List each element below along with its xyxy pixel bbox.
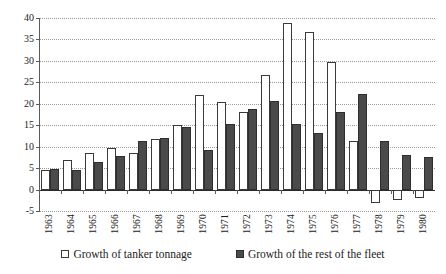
bar-group <box>391 18 413 211</box>
bar-rest-of-fleet <box>204 150 213 189</box>
bar-group <box>413 18 435 211</box>
bar-tanker-tonnage <box>349 141 358 190</box>
x-axis-tick-label: 1980 <box>419 214 429 234</box>
bar-group <box>61 18 83 211</box>
chart-figure: 4035302520151050-5 196319641965196619671… <box>0 0 446 274</box>
bar-rest-of-fleet <box>380 141 389 190</box>
x-tick <box>193 190 194 194</box>
y-axis-tick-label: 25 <box>24 77 34 87</box>
bar-tanker-tonnage <box>305 32 314 189</box>
bar-rest-of-fleet <box>72 170 81 189</box>
bar-rest-of-fleet <box>160 138 169 190</box>
legend-label-tanker-tonnage: Growth of tanker tonnage <box>73 248 191 260</box>
x-axis-tick-label: 1979 <box>397 214 407 234</box>
x-tick <box>105 190 106 194</box>
bar-group <box>171 18 193 211</box>
bar-rest-of-fleet <box>314 133 323 190</box>
bar-rest-of-fleet <box>292 124 301 190</box>
bar-group <box>149 18 171 211</box>
x-tick <box>127 190 128 194</box>
plot-area: 4035302520151050-5 <box>39 18 435 211</box>
x-axis-tick-label: 1971 <box>221 214 231 234</box>
bar-tanker-tonnage <box>327 62 336 190</box>
x-axis-tick-label: 1978 <box>375 214 385 234</box>
gridline <box>39 211 435 212</box>
bar-tanker-tonnage <box>129 153 138 190</box>
bar-rest-of-fleet <box>248 109 257 189</box>
bar-rest-of-fleet <box>138 141 147 189</box>
bar-group <box>237 18 259 211</box>
bar-group <box>347 18 369 211</box>
x-tick <box>39 190 40 194</box>
bar-rest-of-fleet <box>270 101 279 190</box>
y-axis-tick-label: 10 <box>24 142 34 152</box>
bar-group <box>281 18 303 211</box>
x-tick <box>325 190 326 194</box>
bar-tanker-tonnage <box>63 160 72 189</box>
x-axis-tick-label: 1968 <box>155 214 165 234</box>
bar-group <box>193 18 215 211</box>
bar-group <box>325 18 347 211</box>
y-axis-tick-label: 30 <box>24 56 34 66</box>
bar-group <box>369 18 391 211</box>
bar-tanker-tonnage <box>217 102 226 189</box>
x-tick <box>259 190 260 194</box>
bar-group <box>105 18 127 211</box>
y-axis-tick-label: 40 <box>24 13 34 23</box>
x-tick <box>215 190 216 194</box>
bar-rest-of-fleet <box>116 156 125 190</box>
x-axis-tick-label: 1977 <box>353 214 363 234</box>
x-axis-tick-label: 1973 <box>265 214 275 234</box>
y-axis-tick-label: 0 <box>29 185 34 195</box>
bar-tanker-tonnage <box>85 153 94 189</box>
bar-tanker-tonnage <box>107 148 116 189</box>
dark-square-icon <box>236 250 244 258</box>
x-axis-tick-label: 1967 <box>133 214 143 234</box>
x-axis-tick-label: 1972 <box>243 214 253 234</box>
chart-legend: Growth of tanker tonnage Growth of the r… <box>0 248 446 260</box>
bar-tanker-tonnage <box>261 75 270 190</box>
legend-label-rest-of-fleet: Growth of the rest of the fleet <box>248 248 385 260</box>
bar-rest-of-fleet <box>402 155 411 189</box>
y-tick <box>36 211 40 212</box>
bar-tanker-tonnage <box>283 23 292 189</box>
x-axis-tick-label: 1965 <box>89 214 99 234</box>
x-tick <box>149 190 150 194</box>
bar-tanker-tonnage <box>173 125 182 190</box>
bar-group <box>83 18 105 211</box>
y-axis-tick-label: 35 <box>24 34 34 44</box>
x-tick <box>83 190 84 194</box>
bar-rest-of-fleet <box>50 169 59 190</box>
legend-item-rest-of-fleet: Growth of the rest of the fleet <box>236 248 385 260</box>
x-axis-tick-label: 1976 <box>331 214 341 234</box>
x-axis-tick-label: 1963 <box>45 214 55 234</box>
bar-tanker-tonnage <box>239 112 248 189</box>
x-axis-tick-label: 1975 <box>309 214 319 234</box>
x-tick <box>281 190 282 194</box>
bar-group <box>39 18 61 211</box>
bar-tanker-tonnage <box>41 170 50 189</box>
bar-group <box>303 18 325 211</box>
bar-tanker-tonnage <box>393 190 402 200</box>
bar-rest-of-fleet <box>424 157 433 189</box>
y-axis-tick-label: -5 <box>26 206 34 216</box>
bar-group <box>215 18 237 211</box>
bar-groups <box>39 18 435 211</box>
bar-tanker-tonnage <box>195 95 204 189</box>
y-axis-tick-label: 5 <box>29 163 34 173</box>
bar-group <box>127 18 149 211</box>
bar-rest-of-fleet <box>336 112 345 190</box>
light-square-icon <box>61 250 69 258</box>
legend-item-tanker-tonnage: Growth of tanker tonnage <box>61 248 191 260</box>
bar-group <box>259 18 281 211</box>
x-axis-tick-label: 1964 <box>67 214 77 234</box>
x-tick <box>61 190 62 194</box>
x-tick <box>171 190 172 194</box>
y-axis-tick-label: 20 <box>24 99 34 109</box>
bar-rest-of-fleet <box>358 94 367 189</box>
bar-tanker-tonnage <box>415 190 424 198</box>
bar-rest-of-fleet <box>226 124 235 190</box>
bar-tanker-tonnage <box>371 190 380 204</box>
x-axis-tick-label: 1966 <box>111 214 121 234</box>
y-axis-tick-label: 15 <box>24 120 34 130</box>
